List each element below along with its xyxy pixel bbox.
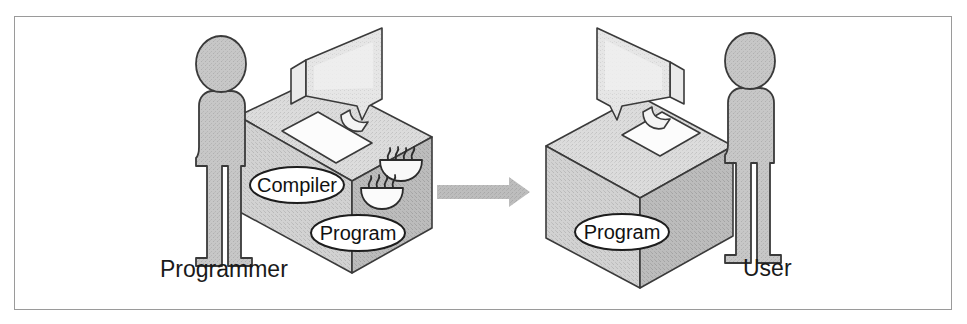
programmer-caption: Programmer (160, 256, 288, 282)
monitor-side-left (291, 60, 306, 104)
right-group-runtime-scene: Program User (546, 28, 792, 288)
programmer-figure (196, 36, 252, 266)
compiler-oval-label: Compiler (257, 174, 337, 196)
transfer-arrow-shape (437, 177, 530, 207)
left-group-compile-scene: Compiler Program Programmer (160, 28, 432, 282)
program-oval-user-label: Program (584, 221, 661, 243)
monitor-side-right (670, 62, 684, 104)
program-oval-compiler-side: Program (311, 215, 405, 251)
compiler-oval: Compiler (250, 167, 344, 203)
user-caption: User (743, 255, 792, 281)
user-head (725, 33, 775, 89)
programmer-head (196, 36, 246, 92)
figure-page: Compiler Program Programmer (0, 0, 967, 324)
diagram-canvas: Compiler Program Programmer (0, 0, 967, 324)
program-oval-user-side: Program (575, 214, 669, 250)
program-oval-label: Program (320, 222, 397, 244)
transfer-arrow (437, 177, 530, 207)
